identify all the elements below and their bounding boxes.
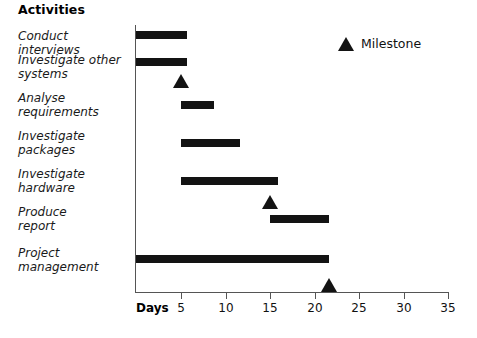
x-axis-tick [270,292,271,299]
page-title: Activities [18,2,85,17]
x-axis-tick-label: 35 [440,301,455,315]
task-bar-investigate-other-systems[interactable] [136,58,187,66]
task-bar-conduct-interviews[interactable] [136,31,187,39]
milestone-day-21-icon[interactable] [321,278,337,292]
milestone-day-15-icon[interactable] [262,195,278,209]
task-bar-analyse-requirements[interactable] [181,101,214,109]
activity-label: Project management [18,246,130,274]
x-axis-tick-label: 20 [307,301,322,315]
activity-label: Investigate other systems [18,53,130,81]
x-axis-tick-label: 30 [396,301,411,315]
x-axis-tick [359,292,360,299]
milestone-triangle-icon [338,37,354,51]
activity-label: Produce report [18,205,130,233]
activity-label: Investigate packages [18,129,130,157]
x-axis-tick-label: 25 [351,301,366,315]
x-axis-title: Days [136,301,169,315]
task-bar-project-management[interactable] [136,255,329,263]
activity-label: Investigate hardware [18,167,130,195]
x-axis-tick-label: 5 [177,301,185,315]
milestone-day-5-icon[interactable] [173,74,189,88]
activity-label: Analyse requirements [18,91,130,119]
task-bar-investigate-packages[interactable] [181,139,240,147]
x-axis-tick-label: 10 [218,301,233,315]
legend: Milestone [338,36,421,51]
legend-item-label: Milestone [361,36,421,51]
x-axis-tick [226,292,227,299]
x-axis-tick-label: 15 [262,301,277,315]
task-bar-produce-report[interactable] [270,215,329,223]
x-axis-tick [448,292,449,299]
gantt-chart-page: Activities Conduct interviewsInvestigate… [0,0,477,338]
x-axis-tick [315,292,316,299]
task-bar-investigate-hardware[interactable] [181,177,278,185]
x-axis-tick [404,292,405,299]
x-axis-tick [181,292,182,299]
